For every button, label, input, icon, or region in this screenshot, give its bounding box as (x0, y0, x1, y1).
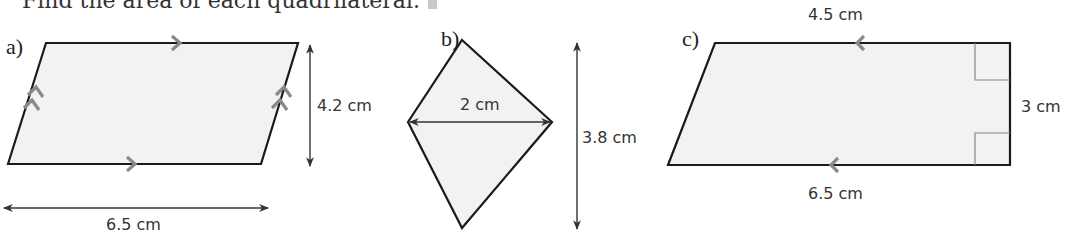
shape-b-kite: b) 2 cm 3.8 cm (408, 26, 637, 229)
parallelogram-outline (8, 43, 298, 164)
part-label-c: c) (682, 26, 699, 51)
trapezium-outline (668, 43, 1010, 165)
height-label-a: 4.2 cm (317, 96, 372, 115)
width-label-b: 2 cm (460, 95, 500, 114)
shape-c-trapezium: c) 4.5 cm 6.5 cm 3 cm (668, 5, 1061, 203)
kite-outline (408, 40, 552, 228)
bottom-label-c: 6.5 cm (808, 184, 863, 203)
top-label-c: 4.5 cm (808, 5, 863, 24)
quadrilaterals-figure: a) 4.2 cm 6.5 cm b) 2 cm 3.8 cm c) 4. (0, 0, 1073, 236)
height-label-b: 3.8 cm (582, 128, 637, 147)
base-label-a: 6.5 cm (106, 215, 161, 234)
part-label-a: a) (6, 34, 23, 59)
height-label-c: 3 cm (1021, 97, 1061, 116)
shape-a-parallelogram: a) 4.2 cm 6.5 cm (4, 34, 372, 234)
